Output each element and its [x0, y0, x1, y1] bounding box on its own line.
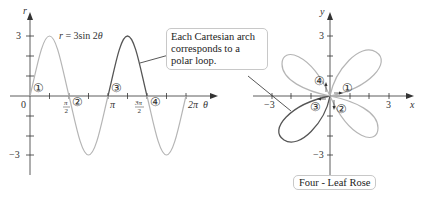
- r-axis-label: r: [23, 5, 27, 16]
- x-axis-label: x: [409, 99, 415, 110]
- xtick-pi-over-2-num: π: [64, 99, 68, 107]
- equation-label: r = 3sin 2θ: [59, 30, 103, 41]
- y-axis-label: y: [319, 6, 325, 17]
- right-plot: y 3 −3 −3 3 x ① ② ③ ④: [253, 6, 415, 175]
- right-ytick-3-label: 3: [319, 30, 324, 41]
- xtick-3-label: 3: [386, 99, 391, 110]
- xtick-pi-label: π: [110, 99, 116, 110]
- xtick-pi-over-2-den: 2: [65, 107, 69, 115]
- loop-label-4: ④: [314, 74, 325, 88]
- arch-label-2: ②: [72, 95, 83, 109]
- theta-axis-arrow-icon: [210, 93, 218, 99]
- ytick-3-label: 3: [16, 30, 21, 41]
- callout-box: Each Cartesian arch corresponds to a pol…: [166, 28, 268, 70]
- ytick-neg3-label: −3: [9, 149, 20, 160]
- xtick-neg3-label: −3: [264, 99, 275, 110]
- loop-1: [330, 50, 381, 96]
- loop-3-highlighted: [279, 96, 330, 142]
- right-ytick-neg3-label: −3: [313, 149, 324, 160]
- loop-label-1: ①: [342, 81, 353, 95]
- xtick-2pi-label: 2π: [188, 99, 199, 110]
- arch-label-4: ④: [150, 95, 161, 109]
- theta-axis-label: θ: [203, 99, 208, 110]
- y-axis-arrow-icon: [327, 12, 333, 20]
- arch-label-1: ①: [33, 81, 44, 95]
- r-axis-arrow-icon: [27, 12, 33, 20]
- xtick-3pi-over-2-den: 2: [138, 107, 142, 115]
- loop-label-2: ②: [336, 102, 347, 116]
- rose-caption: Four - Leaf Rose: [293, 175, 376, 190]
- origin-label: 0: [21, 99, 26, 110]
- loop-label-3: ③: [310, 100, 321, 114]
- arch-label-3: ③: [111, 81, 122, 95]
- xtick-3pi-over-2-num: 3π: [134, 99, 143, 107]
